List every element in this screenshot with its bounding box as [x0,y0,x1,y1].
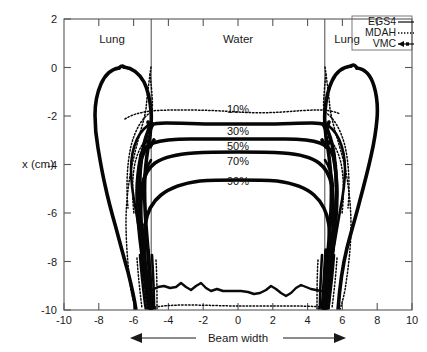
region-label-lung-right: Lung [334,33,360,45]
isodose-contour-chart: -10 -8 -6 -4 -2 0 2 4 6 8 10 2 0 -2 -4 -… [0,0,427,352]
region-label-water: Water [223,33,253,45]
contour-10-vmc-left-bulb [95,68,136,310]
y-axis-ticks-right [405,68,412,262]
y-axis-ticks [64,19,71,310]
x-tick-label: -10 [56,314,72,326]
contour-10-vmc-right-cap [351,65,357,68]
x-axis-title: Beam width [208,332,268,344]
contour-label-30: 30% [227,125,249,137]
x-tick-label: -8 [94,314,104,326]
x-tick-label: 2 [270,314,276,326]
contour-labels: 10% 30% 50% 70% 90% [227,103,249,187]
x-tick-label: 8 [374,314,380,326]
x-tick-label: 10 [406,314,418,326]
contour-10-vmc-left-cap [119,66,124,68]
arrow-head-right [334,333,346,343]
x-axis-ticks-top [99,19,377,26]
y-tick-label: 2 [51,13,57,25]
x-tick-label: 6 [339,314,345,326]
contour-90-bottom-noisy [152,283,321,296]
beam-width-annotation: Beam width [130,332,346,344]
legend-label-vmc: VMC [373,37,397,49]
x-tick-label: 4 [305,314,311,326]
y-tick-label: -8 [47,256,57,268]
contour-label-70: 70% [227,155,249,167]
contour-label-90: 90% [227,175,249,187]
arrow-head-left [130,333,142,343]
region-label-lung-left: Lung [99,33,125,45]
x-tick-labels: -10 -8 -6 -4 -2 0 2 4 6 8 10 [56,314,418,326]
legend: EGS4 MDAH VMC [352,15,414,50]
x-tick-label: 0 [235,314,241,326]
chart-page: -10 -8 -6 -4 -2 0 2 4 6 8 10 2 0 -2 -4 -… [0,0,427,352]
y-tick-label: -6 [47,207,57,219]
y-tick-label: -10 [41,304,57,316]
x-tick-label: -4 [164,314,174,326]
y-axis-title: x (cm) [22,158,54,170]
y-tick-label: -2 [47,110,57,122]
x-tick-label: -2 [198,314,208,326]
contour-label-10: 10% [227,103,249,115]
y-tick-label: 0 [51,62,57,74]
contour-10-mdah-bottom [148,305,322,308]
contour-label-50: 50% [227,140,249,152]
x-tick-label: -6 [129,314,139,326]
